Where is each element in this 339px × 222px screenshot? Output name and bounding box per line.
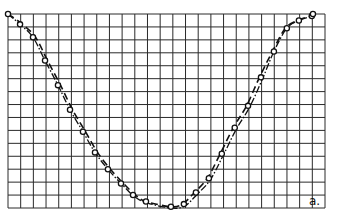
data-point-circle: [193, 190, 198, 195]
data-point-circle: [17, 22, 22, 27]
data-point-circle: [55, 83, 60, 88]
data-point-circle: [219, 151, 224, 156]
data-point-circle: [92, 150, 97, 155]
data-point-circle: [258, 75, 263, 80]
data-point-circle: [42, 58, 47, 63]
data-point-circle: [168, 204, 173, 209]
data-point-circle: [284, 26, 289, 31]
data-point-circle: [245, 103, 250, 108]
data-point-circle: [67, 107, 72, 112]
data-point-circle: [310, 11, 315, 16]
data-point-circle: [5, 11, 10, 16]
data-point-circle: [80, 129, 85, 134]
data-point-circle: [232, 125, 237, 130]
data-point-circle: [143, 199, 148, 204]
data-point-circle: [30, 35, 35, 40]
data-point-circle: [118, 181, 123, 186]
annotation-label: a.: [309, 194, 320, 208]
data-point-circle: [296, 18, 301, 23]
data-point-circle: [181, 202, 186, 207]
data-point-circle: [271, 49, 276, 54]
data-point-circle: [130, 192, 135, 197]
chart: a.: [0, 0, 339, 222]
data-point-circle: [206, 176, 211, 181]
data-point-circle: [105, 167, 110, 172]
